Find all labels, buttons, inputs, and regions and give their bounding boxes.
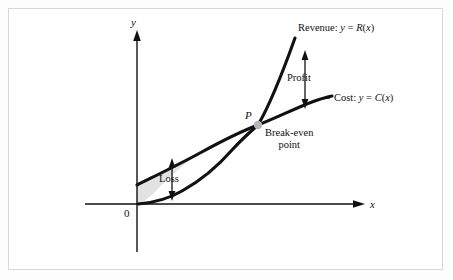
loss-label: Loss	[159, 173, 179, 185]
profit-label: Profit	[287, 72, 311, 84]
break-even-point-marker	[254, 121, 262, 129]
revenue-label-paren-close: )	[371, 22, 375, 33]
break-even-point-letter: P	[245, 109, 252, 121]
revenue-label-equals: =	[345, 22, 356, 33]
revenue-label-prefix: Revenue:	[298, 22, 340, 33]
x-axis-label: x	[370, 198, 375, 210]
cost-label-equals: =	[363, 92, 374, 103]
origin-label: 0	[124, 207, 130, 219]
break-even-caption-line1: Break-even	[265, 127, 313, 139]
cost-label-fn: C	[375, 92, 382, 103]
cost-label-paren-close: )	[390, 92, 394, 103]
revenue-curve-label: Revenue: y = R(x)	[298, 22, 374, 34]
break-even-chart	[0, 0, 453, 280]
break-even-caption-line2: point	[265, 139, 313, 151]
x-axis-arrowhead	[353, 200, 365, 208]
y-axis-label: y	[131, 16, 136, 28]
break-even-point-caption: Break-even point	[265, 127, 313, 152]
cost-curve-label: Cost: y = C(x)	[334, 92, 393, 104]
cost-label-prefix: Cost:	[334, 92, 359, 103]
profit-arrow-head-up	[302, 50, 309, 60]
figure-container: y x 0 Revenue: y = R(x) Cost: y = C(x) P…	[0, 0, 453, 280]
